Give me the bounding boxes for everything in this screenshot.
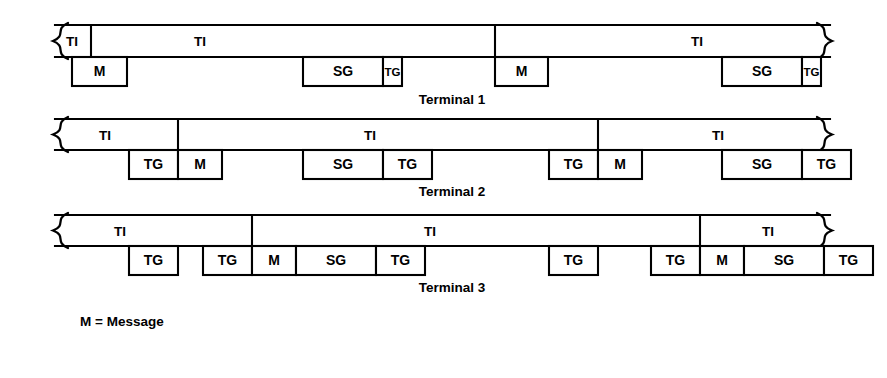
slot-label: TG — [817, 156, 837, 172]
slot-label: M — [716, 252, 728, 268]
slot-label: TG — [804, 66, 820, 78]
frame-right-brace — [817, 23, 832, 59]
ti-label: TI — [424, 224, 436, 239]
ti-label: TI — [364, 128, 376, 143]
frame-left-brace — [53, 213, 68, 248]
legend-entry: M = Message — [80, 314, 164, 329]
slot-label: SG — [333, 156, 353, 172]
slot-label: SG — [752, 156, 772, 172]
slot-label: TG — [398, 156, 418, 172]
slot-label: SG — [333, 63, 353, 79]
ti-label: TI — [114, 224, 126, 239]
frame-right-brace — [817, 117, 832, 152]
legend-layer: M = Message — [80, 314, 164, 329]
terminal-row-3: TITITITGTGMSGTGTGTGMSGTGTerminal 3 — [53, 213, 873, 295]
slot-label: M — [614, 156, 626, 172]
diagram-canvas: TITITIMSGTGMSGTGTerminal 1TITITITGMSGTGT… — [0, 0, 887, 378]
frame-right-brace — [817, 213, 832, 248]
slot-label: TG — [218, 252, 238, 268]
slot-label: M — [194, 156, 206, 172]
slot-label: TG — [564, 156, 584, 172]
terminal-row-2: TITITITGMSGTGTGMSGTGTerminal 2 — [53, 117, 851, 199]
slot-label: SG — [326, 252, 346, 268]
tdma-frame-diagram: TITITIMSGTGMSGTGTerminal 1TITITITGMSGTGT… — [0, 0, 887, 378]
frame-left-brace — [53, 117, 68, 152]
slot-label: M — [268, 252, 280, 268]
ti-label: TI — [194, 34, 206, 49]
ti-label: TI — [99, 128, 111, 143]
ti-label: TI — [712, 128, 724, 143]
slot-label: SG — [752, 63, 772, 79]
ti-label: TI — [762, 224, 774, 239]
slot-label: TG — [385, 66, 401, 78]
terminal-caption: Terminal 1 — [419, 92, 486, 107]
slot-label: TG — [564, 252, 584, 268]
ti-label: TI — [691, 34, 703, 49]
ti-label: TI — [66, 34, 78, 49]
slot-label: TG — [839, 252, 859, 268]
terminal-caption: Terminal 2 — [419, 184, 486, 199]
slot-label: TG — [391, 252, 411, 268]
terminal-row-1: TITITIMSGTGMSGTGTerminal 1 — [53, 23, 832, 107]
terminals-layer: TITITIMSGTGMSGTGTerminal 1TITITITGMSGTGT… — [53, 23, 873, 295]
slot-label: TG — [144, 156, 164, 172]
terminal-caption: Terminal 3 — [419, 280, 486, 295]
slot-label: SG — [774, 252, 794, 268]
slot-label: M — [94, 63, 106, 79]
slot-label: TG — [144, 252, 164, 268]
slot-label: TG — [666, 252, 686, 268]
slot-label: M — [516, 63, 528, 79]
